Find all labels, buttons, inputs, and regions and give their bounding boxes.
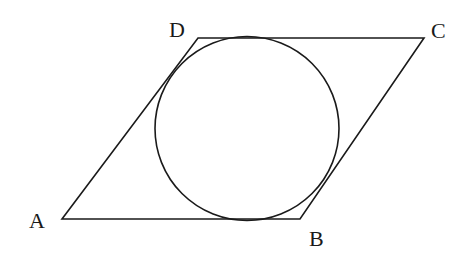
diagram-canvas: A B C D: [0, 0, 475, 262]
vertex-label-a: A: [29, 208, 45, 233]
parallelogram-abcd: [62, 38, 424, 219]
vertex-label-d: D: [169, 17, 185, 42]
vertex-label-c: C: [431, 18, 446, 43]
parallelogram-figure: A B C D: [0, 0, 475, 262]
vertex-label-b: B: [309, 226, 324, 251]
inscribed-circle: [155, 37, 339, 221]
